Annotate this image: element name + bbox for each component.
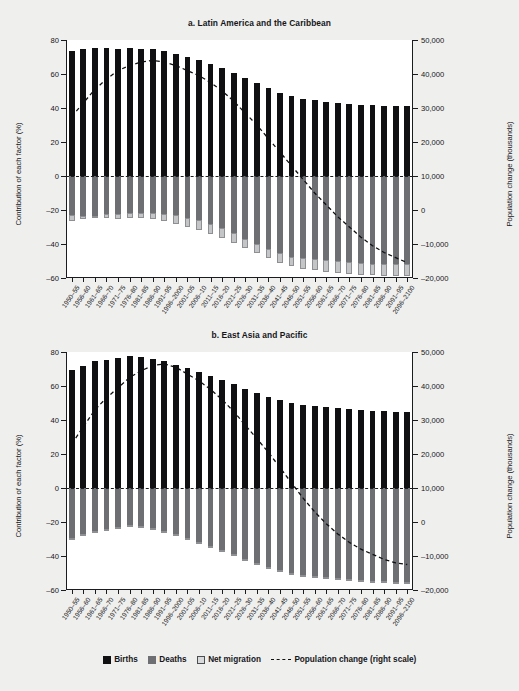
y2-tick-mark [413,40,418,41]
x-tick-mark [83,590,84,594]
x-tick-mark [199,278,200,282]
legend-item-net-migration: Net migration [197,655,261,664]
y2-tick-mark [413,556,418,557]
y-tick-label: –20 [46,206,59,215]
y-tick-label: 20 [51,138,59,147]
panel-b-y2-axis-title: Population change (thousands) [505,433,514,538]
y-tick-mark [61,142,66,143]
x-tick-mark [234,278,235,282]
x-tick-mark [326,278,327,282]
x-tick-mark [384,590,385,594]
panel-a-population-change-line [66,40,413,278]
panel-east-asia-pacific: b. East Asia and Pacific Contribution of… [0,330,519,642]
x-tick-mark [315,278,316,282]
x-tick-mark [407,590,408,594]
x-tick-mark [95,278,96,282]
y2-tick-mark [413,142,418,143]
x-tick-mark [118,590,119,594]
y-tick-mark [61,40,66,41]
x-tick-mark [130,590,131,594]
y-tick-label: 60 [51,70,59,79]
y-tick-label: 40 [51,416,59,425]
x-tick-mark [141,590,142,594]
y-tick-mark [61,74,66,75]
y-tick-label: 80 [51,348,59,357]
y2-tick-mark [413,108,418,109]
x-tick-mark [338,590,339,594]
y-tick-mark [61,278,66,279]
x-tick-mark [373,278,374,282]
y-tick-mark [61,454,66,455]
x-tick-mark [303,278,304,282]
y2-tick-mark [413,210,418,211]
x-tick-mark [373,590,374,594]
y2-tick-mark [413,244,418,245]
y2-tick-label: –20,000 [421,274,448,283]
x-tick-mark [72,278,73,282]
x-tick-mark [349,278,350,282]
dashed-line-swatch-icon [271,659,291,660]
y2-tick-label: 10,000 [421,484,444,493]
panel-b-population-change-line [66,352,413,590]
y2-tick-mark [413,590,418,591]
y2-tick-label: –20,000 [421,586,448,595]
y-tick-label: 40 [51,104,59,113]
y-tick-label: –20 [46,518,59,527]
y-tick-mark [61,176,66,177]
y-tick-label: 0 [55,484,59,493]
x-tick-mark [199,590,200,594]
x-tick-mark [153,590,154,594]
x-tick-mark [349,590,350,594]
y-tick-label: –60 [46,274,59,283]
x-tick-mark [153,278,154,282]
x-tick-mark [83,278,84,282]
panel-latin-america: a. Latin America and the Caribbean Contr… [0,18,519,330]
y-tick-mark [61,590,66,591]
y2-tick-mark [413,488,418,489]
x-tick-mark [106,590,107,594]
y-tick-label: –60 [46,586,59,595]
x-tick-mark [95,590,96,594]
x-tick-mark [234,590,235,594]
x-tick-mark [361,590,362,594]
y-tick-mark [61,210,66,211]
panel-b-y-axis-title: Contribution of each factor (%) [14,435,23,538]
legend-item-births: Births [103,655,138,664]
x-tick-mark [384,278,385,282]
y-tick-mark [61,522,66,523]
x-tick-mark [257,278,258,282]
panel-b-plot-area: –60–40–20020406080 –20,000–10,000010,000… [66,352,413,590]
x-tick-mark [361,278,362,282]
x-tick-mark [164,278,165,282]
y-tick-label: 20 [51,450,59,459]
x-tick-mark [141,278,142,282]
legend-item-deaths: Deaths [148,655,187,664]
y2-tick-mark [413,522,418,523]
x-tick-mark [315,590,316,594]
x-tick-mark [292,590,293,594]
y2-tick-label: 0 [421,518,425,527]
x-tick-mark [176,278,177,282]
panel-b-title: b. East Asia and Pacific [0,330,519,340]
y2-tick-label: –10,000 [421,240,448,249]
y2-tick-label: 40,000 [421,70,444,79]
y2-tick-label: 20,000 [421,138,444,147]
x-tick-mark [268,590,269,594]
x-tick-mark [187,278,188,282]
legend-label-net-migration: Net migration [208,655,261,664]
y-tick-label: –40 [46,552,59,561]
x-tick-mark [211,278,212,282]
y-tick-label: 60 [51,382,59,391]
panel-a-title: a. Latin America and the Caribbean [0,18,519,28]
x-tick-mark [326,590,327,594]
y2-tick-label: 40,000 [421,382,444,391]
figure-root: a. Latin America and the Caribbean Contr… [0,0,519,691]
y2-tick-label: 10,000 [421,172,444,181]
x-tick-mark [222,590,223,594]
x-tick-mark [187,590,188,594]
panel-a-y2-axis-title: Population change (thousands) [505,121,514,226]
y-tick-label: 0 [55,172,59,181]
figure-legend: Births Deaths Net migration Population c… [0,655,519,664]
x-tick-mark [338,278,339,282]
y2-tick-mark [413,420,418,421]
